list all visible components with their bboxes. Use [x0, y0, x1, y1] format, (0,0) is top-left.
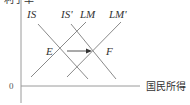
- lm-prime-curve: [67, 22, 121, 77]
- point-f-label: F: [105, 45, 113, 57]
- lm-label: LM: [79, 8, 96, 20]
- y-axis-label: 利子率: [4, 0, 34, 5]
- is-label: IS: [26, 8, 37, 20]
- is-lm-diagram: IS IS' LM LM' E F 0 国民所得 利子率: [0, 0, 190, 105]
- origin-label: 0: [9, 81, 14, 91]
- lm-prime-label: LM': [108, 8, 127, 20]
- lm-curve: [31, 22, 86, 77]
- is-prime-label: IS': [60, 8, 73, 20]
- x-axis-label: 国民所得: [146, 81, 186, 92]
- point-e-label: E: [45, 45, 53, 57]
